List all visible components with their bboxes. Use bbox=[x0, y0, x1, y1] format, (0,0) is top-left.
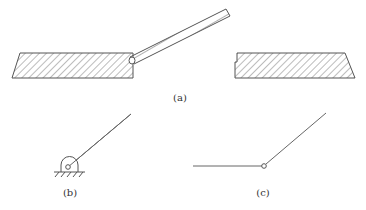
left-block bbox=[12, 53, 133, 78]
right-block bbox=[235, 53, 355, 78]
ground-hatch bbox=[55, 172, 83, 177]
rod-tip bbox=[129, 57, 135, 64]
label-a: (a) bbox=[173, 92, 187, 103]
rod bbox=[129, 9, 230, 64]
pin-joint bbox=[262, 164, 267, 169]
hinge-support bbox=[61, 157, 78, 173]
panel-c: (c) bbox=[193, 113, 326, 198]
pivot-pin bbox=[66, 165, 71, 170]
panel-b: (b) bbox=[54, 114, 131, 198]
panel-a: (a) bbox=[12, 9, 355, 103]
label-c: (c) bbox=[256, 187, 270, 198]
inclined-link bbox=[266, 113, 326, 164]
label-b: (b) bbox=[63, 187, 77, 198]
diagram-canvas: (a) (b) (c) bbox=[0, 0, 366, 210]
